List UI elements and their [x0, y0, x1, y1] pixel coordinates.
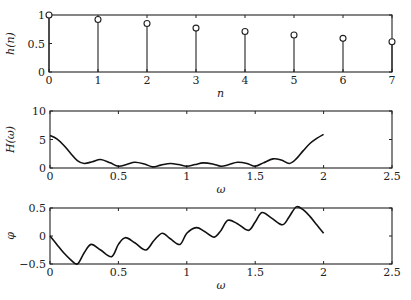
- x-tick-label: 1: [183, 170, 190, 183]
- x-axis-label: ω: [217, 279, 226, 292]
- x-tick-label: 1: [183, 266, 190, 279]
- y-tick-label: −0.5: [19, 258, 46, 271]
- stem-marker: [95, 17, 101, 23]
- subplot-3: 00.511.522.5−0.500.5ωφ: [4, 202, 401, 292]
- x-axis-label: ω: [217, 183, 226, 196]
- x-tick-label: 3: [193, 74, 200, 87]
- y-tick-label: 0: [39, 230, 46, 243]
- x-axis-label: n: [217, 87, 224, 100]
- x-tick-label: 7: [389, 74, 396, 87]
- x-tick-label: 1.5: [246, 266, 264, 279]
- y-axis-label: H(ω): [4, 126, 17, 154]
- x-tick-label: 2: [320, 266, 327, 279]
- stem-marker: [242, 29, 248, 35]
- x-tick-label: 0: [46, 74, 53, 87]
- axes-box: [50, 208, 392, 264]
- x-tick-label: 2.5: [383, 266, 401, 279]
- y-tick-label: 0.5: [28, 38, 46, 51]
- figure: 0123456700.51nh(n)00.511.522.50510ωH(ω)0…: [0, 0, 411, 300]
- y-tick-label: 5: [39, 134, 46, 147]
- y-axis-label: φ: [4, 232, 17, 240]
- y-tick-label: 0: [39, 162, 46, 175]
- x-tick-label: 2: [144, 74, 151, 87]
- axes-box: [49, 15, 392, 72]
- y-tick-label: 0.5: [29, 202, 47, 215]
- x-tick-label: 0: [47, 170, 54, 183]
- x-tick-label: 6: [340, 74, 347, 87]
- x-tick-label: 0.5: [110, 266, 128, 279]
- y-tick-label: 1: [38, 9, 45, 22]
- x-tick-label: 2: [320, 170, 327, 183]
- x-tick-label: 0.5: [110, 170, 128, 183]
- x-tick-label: 4: [242, 74, 249, 87]
- stem-marker: [144, 21, 150, 27]
- x-tick-label: 0: [47, 266, 54, 279]
- x-tick-label: 1.5: [246, 170, 264, 183]
- y-tick-label: 10: [32, 105, 46, 118]
- y-tick-label: 0: [38, 66, 45, 79]
- y-axis-label: h(n): [4, 32, 17, 55]
- data-curve: [50, 134, 324, 167]
- stem-marker: [291, 32, 297, 38]
- stem-marker: [193, 25, 199, 31]
- x-tick-label: 2.5: [383, 170, 401, 183]
- stem-marker: [389, 39, 395, 45]
- x-tick-label: 1: [95, 74, 102, 87]
- stem-marker: [340, 35, 346, 41]
- data-curve: [50, 207, 324, 265]
- stem-marker: [46, 12, 52, 18]
- subplot-2: 00.511.522.50510ωH(ω): [4, 105, 401, 196]
- subplot-1: 0123456700.51nh(n): [4, 9, 396, 100]
- x-tick-label: 5: [291, 74, 298, 87]
